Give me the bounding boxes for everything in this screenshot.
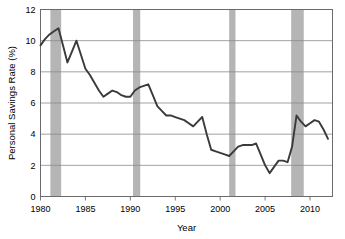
x-tick-label-1985: 1985 [75,204,95,214]
y-tick-label-12: 12 [25,5,35,15]
x-tick-label-2000: 2000 [210,204,230,214]
y-tick-label-8: 8 [30,67,35,77]
y-tick-label-2: 2 [30,161,35,171]
y-tick-label-4: 4 [30,129,35,139]
x-tick-label-2010: 2010 [300,204,320,214]
y-axis-ticks-group: 024681012 [25,5,35,202]
x-tick-label-1995: 1995 [165,204,185,214]
personal-savings-rate-chart: 024681012 1980198519901995200020052010 P… [0,0,345,239]
x-axis-ticks-group: 1980198519901995200020052010 [30,197,320,214]
gridlines-group [41,41,333,166]
x-tick-label-1990: 1990 [120,204,140,214]
x-tick-label-1980: 1980 [30,204,50,214]
x-tick-label-2005: 2005 [255,204,275,214]
chart-canvas: 024681012 1980198519901995200020052010 P… [0,0,345,239]
y-tick-label-10: 10 [25,36,35,46]
x-axis-title: Year [177,222,196,233]
y-axis-title: Personal Savings Rate (%) [6,46,17,160]
savings-rate-line [41,28,329,173]
y-tick-label-6: 6 [30,98,35,108]
y-tick-label-0: 0 [30,192,35,202]
